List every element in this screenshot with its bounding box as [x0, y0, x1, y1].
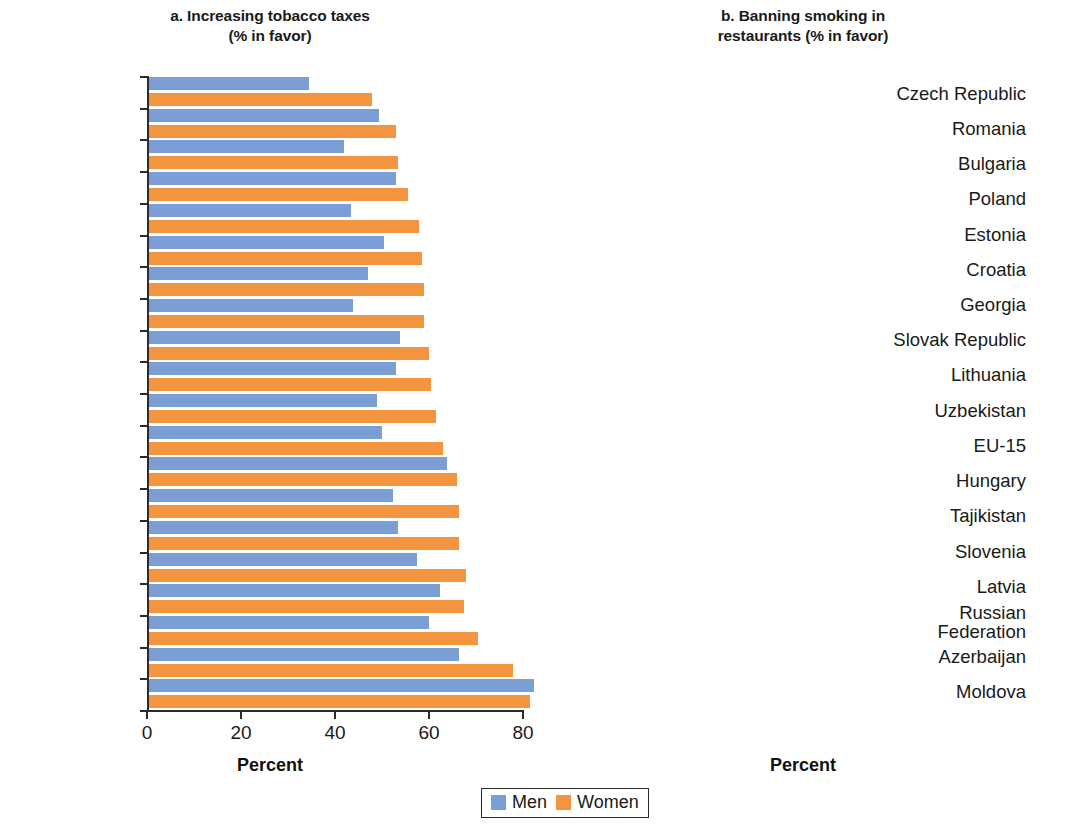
panel-a-x-tick-label: 80: [512, 722, 533, 744]
bar-women: [149, 632, 478, 645]
bar-group: [149, 172, 523, 204]
bar-women: [149, 93, 372, 106]
bar-women: [149, 664, 513, 677]
panel-a-x-axis-title: Percent: [0, 755, 540, 776]
legend-item: Women: [556, 792, 639, 813]
category-label: Estonia: [676, 225, 1026, 245]
bar-group: [149, 236, 523, 268]
bar-group: [149, 553, 523, 585]
panel-a-plot-area: 020406080: [147, 76, 523, 710]
panel-b-title-line2: restaurants (% in favor): [533, 26, 1073, 46]
bar-men: [149, 362, 396, 375]
category-label: Georgia: [676, 295, 1026, 315]
bar-women: [149, 442, 443, 455]
bar-men: [149, 426, 382, 439]
panel-a-x-tick-label: 60: [418, 722, 439, 744]
bar-men: [149, 521, 398, 534]
panel-a-title-line2: (% in favor): [0, 26, 540, 46]
panel-b-title-line1: b. Banning smoking in: [533, 6, 1073, 26]
bar-men: [149, 489, 393, 502]
panel-a-x-tick: [428, 710, 430, 719]
panel-a-y-tick: [140, 76, 147, 78]
bar-men: [149, 553, 417, 566]
category-label: Azerbaijan: [676, 647, 1026, 667]
legend-swatch-icon: [556, 795, 571, 810]
panel-b-title: b. Banning smoking in restaurants (% in …: [533, 6, 1073, 46]
panel-b-x-axis-title: Percent: [533, 755, 1073, 776]
bar-men: [149, 394, 377, 407]
bar-group: [149, 489, 523, 521]
bar-men: [149, 77, 309, 90]
bar-men: [149, 236, 384, 249]
panel-a: a. Increasing tobacco taxes (% in favor)…: [0, 0, 540, 800]
bar-women: [149, 505, 459, 518]
bar-men: [149, 331, 400, 344]
figure-root: a. Increasing tobacco taxes (% in favor)…: [0, 0, 1073, 825]
bar-group: [149, 521, 523, 553]
panel-a-y-tick: [140, 203, 147, 205]
bar-women: [149, 315, 424, 328]
panel-a-y-tick: [140, 583, 147, 585]
category-label: Croatia: [676, 260, 1026, 280]
category-label: Romania: [676, 119, 1026, 139]
panel-a-x-tick: [240, 710, 242, 719]
bar-men: [149, 457, 447, 470]
panel-a-x-tick: [522, 710, 524, 719]
bar-women: [149, 156, 398, 169]
bar-group: [149, 140, 523, 172]
panel-a-y-tick: [140, 710, 147, 712]
category-label: EU-15: [676, 436, 1026, 456]
legend-item: Men: [491, 792, 547, 813]
bar-group: [149, 204, 523, 236]
panel-a-y-tick: [140, 647, 147, 649]
panel-a-y-tick: [140, 456, 147, 458]
bar-group: [149, 426, 523, 458]
panel-a-x-tick-label: 0: [142, 722, 153, 744]
bar-women: [149, 410, 436, 423]
bar-men: [149, 140, 344, 153]
bar-women: [149, 378, 431, 391]
legend-label: Men: [512, 792, 547, 813]
panel-a-y-tick: [140, 425, 147, 427]
bar-women: [149, 473, 457, 486]
bar-group: [149, 648, 523, 680]
panel-a-title-line1: a. Increasing tobacco taxes: [0, 6, 540, 26]
category-label: Latvia: [676, 577, 1026, 597]
bar-women: [149, 569, 466, 582]
panel-a-y-tick: [140, 615, 147, 617]
bar-group: [149, 267, 523, 299]
bar-group: [149, 394, 523, 426]
bar-men: [149, 204, 351, 217]
panel-a-y-tick: [140, 266, 147, 268]
bar-group: [149, 299, 523, 331]
bar-men: [149, 648, 459, 661]
bar-men: [149, 267, 368, 280]
bar-men: [149, 584, 440, 597]
panel-a-y-tick: [140, 678, 147, 680]
panel-a-y-tick: [140, 108, 147, 110]
panel-a-y-tick: [140, 171, 147, 173]
bar-men: [149, 299, 353, 312]
legend: MenWomen: [481, 788, 649, 818]
bar-men: [149, 679, 534, 692]
category-label: Czech Republic: [676, 84, 1026, 104]
legend-swatch-icon: [491, 795, 506, 810]
bar-group: [149, 362, 523, 394]
category-label: Poland: [676, 189, 1026, 209]
bar-group: [149, 616, 523, 648]
bar-women: [149, 252, 422, 265]
bar-women: [149, 537, 459, 550]
bar-group: [149, 679, 523, 711]
bar-group: [149, 331, 523, 363]
bar-group: [149, 77, 523, 109]
bar-women: [149, 347, 429, 360]
panel-a-x-tick-label: 20: [230, 722, 251, 744]
panel-a-x-tick: [334, 710, 336, 719]
bar-women: [149, 220, 419, 233]
category-label: Uzbekistan: [676, 401, 1026, 421]
category-label: Tajikistan: [676, 506, 1026, 526]
bar-men: [149, 616, 429, 629]
panel-a-title: a. Increasing tobacco taxes (% in favor): [0, 6, 540, 46]
panel-a-y-tick: [140, 361, 147, 363]
bar-women: [149, 695, 530, 708]
